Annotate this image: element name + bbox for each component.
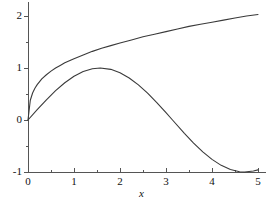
series-path-upper-curve <box>28 14 258 120</box>
y-tick-label: 0 <box>0 114 22 125</box>
curves-group <box>28 14 258 172</box>
plot-canvas <box>0 0 270 211</box>
series-path-lower-curve <box>28 68 258 172</box>
y-tick-label: 1 <box>0 62 22 73</box>
x-tick-label: 5 <box>248 176 268 187</box>
x-tick-label: 0 <box>18 176 38 187</box>
x-tick-label: 1 <box>64 176 84 187</box>
x-tick-label: 3 <box>156 176 176 187</box>
y-tick-label: -1 <box>0 166 22 177</box>
x-axis-label: x <box>139 188 144 199</box>
y-tick-label: 2 <box>0 10 22 21</box>
chart-container: 012345-1012 x <box>0 0 270 211</box>
x-tick-label: 4 <box>202 176 222 187</box>
x-tick-label: 2 <box>110 176 130 187</box>
